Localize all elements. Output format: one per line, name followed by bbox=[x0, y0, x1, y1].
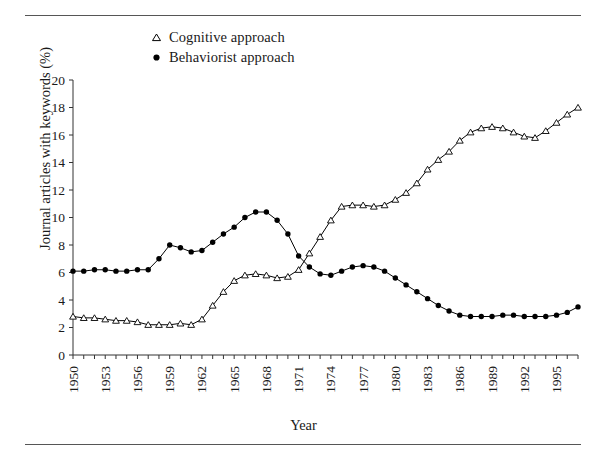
data-point bbox=[221, 231, 226, 236]
data-point bbox=[70, 268, 75, 273]
data-point bbox=[489, 314, 494, 319]
svg-text:1986: 1986 bbox=[452, 366, 467, 393]
data-point bbox=[510, 129, 517, 135]
svg-text:1959: 1959 bbox=[162, 366, 177, 393]
x-tick-layer: 1950195319561959196219651968197119741977… bbox=[66, 355, 579, 393]
data-point bbox=[242, 215, 247, 220]
data-point bbox=[532, 314, 537, 319]
data-point bbox=[339, 268, 344, 273]
svg-text:1977: 1977 bbox=[356, 366, 371, 393]
data-point bbox=[188, 249, 193, 254]
data-point bbox=[392, 197, 399, 203]
svg-text:1965: 1965 bbox=[227, 366, 242, 393]
svg-text:2: 2 bbox=[58, 320, 65, 335]
svg-text:1992: 1992 bbox=[517, 366, 532, 393]
svg-text:1971: 1971 bbox=[291, 366, 306, 393]
svg-text:1950: 1950 bbox=[66, 366, 81, 393]
svg-text:0: 0 bbox=[58, 348, 65, 363]
data-point bbox=[284, 274, 291, 280]
data-point bbox=[371, 264, 376, 269]
data-point bbox=[92, 267, 97, 272]
svg-text:1989: 1989 bbox=[485, 366, 500, 393]
data-point bbox=[500, 312, 505, 317]
data-point bbox=[178, 245, 183, 250]
svg-text:12: 12 bbox=[52, 183, 66, 198]
data-point bbox=[414, 289, 419, 294]
data-point bbox=[393, 275, 398, 280]
data-point bbox=[135, 267, 140, 272]
data-point bbox=[522, 314, 527, 319]
data-point bbox=[274, 218, 279, 223]
data-series-layer bbox=[70, 104, 582, 327]
data-point bbox=[511, 312, 516, 317]
svg-text:10: 10 bbox=[52, 210, 66, 225]
data-point bbox=[446, 308, 451, 313]
data-point bbox=[425, 296, 430, 301]
svg-text:1980: 1980 bbox=[388, 366, 403, 393]
data-point bbox=[489, 124, 496, 130]
data-point bbox=[156, 256, 161, 261]
data-point bbox=[146, 267, 151, 272]
data-point bbox=[575, 304, 580, 309]
data-point bbox=[554, 312, 559, 317]
data-point bbox=[103, 267, 108, 272]
data-point bbox=[467, 129, 474, 135]
data-point bbox=[167, 242, 172, 247]
data-point bbox=[253, 209, 258, 214]
data-point bbox=[575, 104, 582, 110]
series-behaviorist bbox=[70, 209, 580, 319]
data-point bbox=[113, 268, 118, 273]
series-cognitive bbox=[70, 104, 582, 327]
data-point bbox=[296, 253, 301, 258]
data-point bbox=[328, 273, 333, 278]
data-point bbox=[306, 250, 313, 256]
data-point bbox=[521, 133, 528, 139]
svg-text:1956: 1956 bbox=[130, 366, 145, 393]
data-point bbox=[252, 271, 259, 277]
data-point bbox=[381, 202, 388, 208]
svg-text:20: 20 bbox=[52, 73, 66, 88]
data-point bbox=[565, 310, 570, 315]
svg-text:1974: 1974 bbox=[323, 366, 338, 393]
data-point bbox=[468, 314, 473, 319]
data-point bbox=[231, 278, 238, 284]
data-point bbox=[231, 224, 236, 229]
data-point bbox=[81, 268, 86, 273]
data-point bbox=[457, 312, 462, 317]
data-point bbox=[285, 231, 290, 236]
data-point bbox=[307, 264, 312, 269]
svg-text:8: 8 bbox=[58, 238, 65, 253]
svg-text:1962: 1962 bbox=[194, 366, 209, 393]
svg-text:16: 16 bbox=[52, 128, 66, 143]
data-point bbox=[403, 282, 408, 287]
data-point bbox=[360, 263, 365, 268]
svg-text:18: 18 bbox=[52, 100, 66, 115]
data-point bbox=[70, 313, 77, 319]
figure-container: Cognitive approach Behaviorist approach … bbox=[0, 0, 607, 455]
svg-text:1995: 1995 bbox=[549, 366, 564, 393]
data-point bbox=[350, 264, 355, 269]
data-point bbox=[210, 240, 215, 245]
data-point bbox=[317, 271, 322, 276]
y-axis-title: Journal articles with keywords (%) bbox=[37, 24, 54, 274]
data-point bbox=[543, 314, 548, 319]
svg-text:1968: 1968 bbox=[259, 366, 274, 393]
data-point bbox=[177, 320, 184, 326]
data-point bbox=[199, 248, 204, 253]
data-point bbox=[436, 303, 441, 308]
svg-text:4: 4 bbox=[58, 293, 65, 308]
x-axis-title: Year bbox=[0, 417, 607, 434]
svg-text:1953: 1953 bbox=[98, 366, 113, 393]
data-point bbox=[564, 111, 571, 117]
data-point bbox=[382, 268, 387, 273]
data-point bbox=[295, 267, 302, 273]
line-chart-plot: 02468101214161820 1950195319561959196219… bbox=[0, 0, 607, 455]
data-point bbox=[317, 234, 324, 240]
svg-text:14: 14 bbox=[52, 155, 66, 170]
data-point bbox=[264, 209, 269, 214]
svg-text:1983: 1983 bbox=[420, 366, 435, 393]
data-point bbox=[124, 268, 129, 273]
svg-text:6: 6 bbox=[58, 265, 65, 280]
data-point bbox=[479, 314, 484, 319]
